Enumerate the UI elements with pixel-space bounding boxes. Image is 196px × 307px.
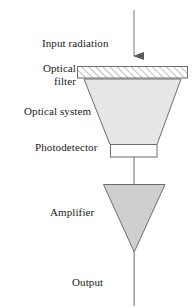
optical-filter-block: [78, 67, 188, 79]
label-input-radiation: Input radiation: [42, 37, 109, 50]
label-optical-filter-line2: filter: [43, 75, 76, 88]
label-amplifier: Amplifier: [50, 206, 94, 219]
label-photodetector: Photodetector: [35, 141, 97, 154]
label-optical-system: Optical system: [24, 105, 91, 118]
optical-detection-system-diagram: Input radiation Optical filter Optical s…: [0, 0, 196, 307]
optical-system-block: [84, 79, 181, 145]
amplifier-block: [104, 185, 166, 253]
photodetector-block: [111, 145, 158, 158]
label-output: Output: [72, 276, 103, 289]
label-optical-filter-line1: Optical: [43, 62, 76, 75]
label-optical-filter: Optical filter: [43, 62, 76, 88]
